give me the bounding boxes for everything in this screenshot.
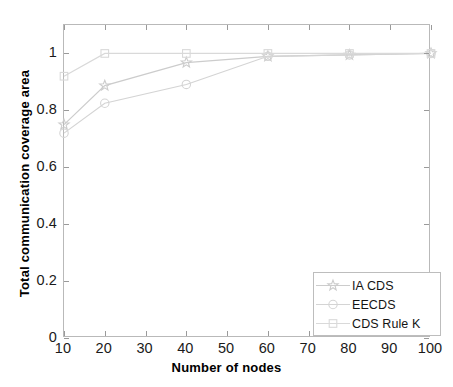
x-axis-title: Number of nodes: [0, 360, 453, 375]
x-tick-mark: [146, 331, 147, 336]
legend-label: IA CDS: [352, 279, 394, 293]
series-line: [64, 53, 431, 133]
x-tick-mark: [268, 331, 269, 336]
legend-marker-circle: [314, 295, 352, 314]
y-tick-mark: [64, 110, 69, 111]
y-tick-mark: [64, 281, 69, 282]
x-tick-mark: [227, 25, 228, 30]
y-tick-mark: [64, 224, 69, 225]
x-tick-mark: [309, 331, 310, 336]
x-tick-mark: [146, 25, 147, 30]
series-line: [64, 53, 431, 76]
y-tick-mark: [64, 53, 69, 54]
x-tick-mark: [431, 25, 432, 30]
series-1: [60, 49, 435, 137]
legend-label: CDS Rule K: [352, 317, 420, 331]
series-line: [64, 53, 431, 124]
y-tick-mark: [424, 338, 429, 339]
legend-item-0[interactable]: IA CDS: [314, 276, 440, 295]
y-tick-mark: [424, 224, 429, 225]
x-tick-mark: [64, 331, 65, 336]
x-tick-mark: [390, 25, 391, 30]
x-tick-mark: [309, 25, 310, 30]
legend-marker-star: [314, 276, 352, 295]
x-tick-label: 100: [405, 340, 453, 356]
x-tick-mark: [227, 331, 228, 336]
chart-figure: 00.20.40.60.81 102030405060708090100 Tot…: [0, 0, 453, 387]
y-tick-mark: [424, 167, 429, 168]
x-tick-mark: [105, 331, 106, 336]
legend[interactable]: IA CDS EECDS CDS Rule K: [313, 272, 441, 336]
x-tick-mark: [349, 25, 350, 30]
x-tick-mark: [186, 331, 187, 336]
legend-item-2[interactable]: CDS Rule K: [314, 314, 440, 333]
legend-label: EECDS: [352, 298, 396, 312]
x-tick-mark: [64, 25, 65, 30]
x-tick-mark: [268, 25, 269, 30]
y-axis-title: Total communication coverage area: [17, 34, 32, 334]
x-tick-mark: [105, 25, 106, 30]
y-tick-mark: [64, 167, 69, 168]
series-0: [59, 48, 436, 129]
legend-marker-square: [314, 314, 352, 333]
y-tick-mark: [64, 338, 69, 339]
x-tick-mark: [186, 25, 187, 30]
legend-item-1[interactable]: EECDS: [314, 295, 440, 314]
y-tick-mark: [424, 110, 429, 111]
y-tick-mark: [424, 53, 429, 54]
